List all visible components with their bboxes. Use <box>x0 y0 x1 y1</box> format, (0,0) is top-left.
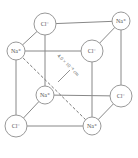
ion-label: Na⁺ <box>40 92 50 98</box>
distance-arrow <box>58 70 70 82</box>
ion-na-back-bottom-left: Na⁺ <box>36 86 54 104</box>
ion-na-back-top-right: Na⁺ <box>112 12 130 30</box>
ion-cl-back-top-left: Cl⁻ <box>34 13 56 35</box>
ion-label: Na⁺ <box>87 123 97 129</box>
ion-cl-front-top-right: Cl⁻ <box>81 40 103 62</box>
ion-na-front-bottom-right: Na⁺ <box>83 117 101 135</box>
ion-label: Na⁺ <box>116 18 126 24</box>
lattice-edges <box>16 21 121 126</box>
ion-cl-front-bottom-left: Cl⁻ <box>5 115 27 137</box>
ion-cl-back-bottom-right: Cl⁻ <box>110 85 132 107</box>
diagonal-distance-line <box>16 51 92 126</box>
nacl-lattice-diagram: 4.0 × 10⁻⁸ cm Cl⁻Na⁺Na⁺Cl⁻Na⁺Cl⁻Cl⁻Na⁺ <box>0 0 138 158</box>
ion-na-front-top-left: Na⁺ <box>7 42 25 60</box>
ion-label: Cl⁻ <box>88 48 97 54</box>
ion-label: Cl⁻ <box>12 123 21 129</box>
ion-label: Na⁺ <box>11 48 21 54</box>
distance-label: 4.0 × 10⁻⁸ cm <box>56 53 80 77</box>
ion-label: Cl⁻ <box>117 93 126 99</box>
ion-label: Cl⁻ <box>41 21 50 27</box>
